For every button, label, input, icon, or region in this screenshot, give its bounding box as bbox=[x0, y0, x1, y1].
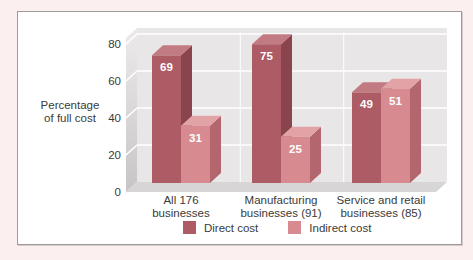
y-tick-label-60: 60 bbox=[85, 74, 121, 88]
legend-label: Indirect cost bbox=[309, 222, 371, 234]
plot-floor bbox=[126, 182, 447, 192]
legend-label: Direct cost bbox=[204, 222, 258, 234]
chart-figure: 693175254951 Percentage of full cost 806… bbox=[0, 0, 473, 260]
legend-item-indirect-cost: Indirect cost bbox=[288, 221, 371, 234]
legend-item-direct-cost: Direct cost bbox=[183, 221, 258, 234]
y-tick-label-80: 80 bbox=[85, 37, 121, 51]
y-tick-label-0: 0 bbox=[85, 185, 121, 199]
legend: Direct costIndirect cost bbox=[183, 221, 371, 234]
bar-side-indirect-cost-2 bbox=[410, 79, 421, 183]
bar-value-label-indirect-cost-2: 51 bbox=[389, 95, 402, 107]
bar-value-label-direct-cost-1: 75 bbox=[260, 50, 273, 62]
bar-value-label-indirect-cost-1: 25 bbox=[289, 143, 302, 155]
category-label-2: Service and retail businesses (85) bbox=[321, 194, 441, 220]
y-tick-label-20: 20 bbox=[85, 148, 121, 162]
legend-swatch-indirect-cost bbox=[288, 221, 301, 234]
bar-value-label-direct-cost-0: 69 bbox=[160, 61, 173, 73]
legend-swatch-direct-cost bbox=[183, 221, 196, 234]
y-tick-label-40: 40 bbox=[85, 111, 121, 125]
bar-side-indirect-cost-0 bbox=[210, 116, 221, 183]
bar-direct-cost-0 bbox=[152, 55, 181, 183]
bar-value-label-indirect-cost-0: 31 bbox=[189, 132, 202, 144]
bar-value-label-direct-cost-2: 49 bbox=[360, 98, 373, 110]
bar-direct-cost-1 bbox=[252, 44, 281, 183]
